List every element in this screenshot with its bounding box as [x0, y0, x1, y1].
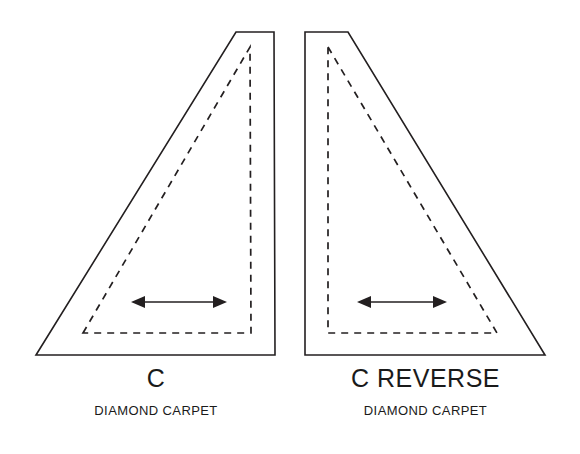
label-layer: C DIAMOND CARPET C REVERSE DIAMOND CARPE…: [0, 0, 580, 454]
piece-description-c: DIAMOND CARPET: [36, 404, 276, 417]
piece-code-c: C: [36, 366, 276, 391]
figure-canvas: C DIAMOND CARPET C REVERSE DIAMOND CARPE…: [0, 0, 580, 454]
piece-label-c: C DIAMOND CARPET: [36, 366, 276, 417]
piece-code-c-reverse: C REVERSE: [305, 366, 546, 391]
piece-label-c-reverse: C REVERSE DIAMOND CARPET: [305, 366, 546, 417]
piece-description-c-reverse: DIAMOND CARPET: [305, 404, 546, 417]
